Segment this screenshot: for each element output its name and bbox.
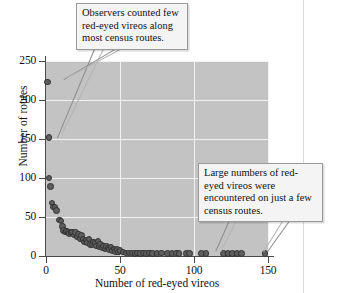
y-axis-tick-label: 0 <box>0 250 36 262</box>
x-axis-tick-label: 100 <box>177 265 211 277</box>
y-axis-tick <box>39 61 46 62</box>
data-point <box>238 250 245 257</box>
x-axis-tick-label: 0 <box>29 265 63 277</box>
y-axis-tick-label: 100 <box>0 172 36 184</box>
data-point <box>47 183 54 190</box>
y-axis-tick-label: 150 <box>0 133 36 145</box>
y-axis-tick-label: 50 <box>0 211 36 223</box>
y-axis-tick <box>39 100 46 101</box>
gridline-vertical <box>268 61 269 256</box>
y-axis-tick <box>39 217 46 218</box>
x-axis-tick <box>46 257 47 263</box>
x-axis-tick-label: 50 <box>103 265 137 277</box>
data-point <box>186 250 193 257</box>
y-axis-line <box>45 56 46 257</box>
y-axis-tick <box>39 256 46 257</box>
gridline-vertical <box>194 61 195 256</box>
y-axis-tick <box>39 178 46 179</box>
x-axis-title: Number of red-eyed vireos <box>46 277 268 289</box>
callout-left: Observers counted few red-eyed vireos al… <box>76 3 188 50</box>
callout-right: Large numbers of red-eyed vireos were en… <box>198 163 323 222</box>
x-axis-tick <box>120 257 121 263</box>
gridline-horizontal <box>46 61 268 62</box>
y-axis-tick-label: 250 <box>0 55 36 67</box>
gridline-vertical <box>120 61 121 256</box>
x-axis-tick <box>268 257 269 263</box>
data-point <box>203 250 210 257</box>
plot-area <box>46 61 268 256</box>
data-point <box>46 134 53 141</box>
gridline-horizontal <box>46 100 268 101</box>
gridline-horizontal <box>46 139 268 140</box>
x-axis-tick-label: 150 <box>251 265 285 277</box>
data-point <box>44 79 51 86</box>
scatterplot-figure: Number of routes Number of red-eyed vire… <box>0 0 342 293</box>
data-point <box>53 207 60 214</box>
x-axis-tick <box>194 257 195 263</box>
y-axis-tick <box>39 139 46 140</box>
y-axis-tick-label: 200 <box>0 94 36 106</box>
